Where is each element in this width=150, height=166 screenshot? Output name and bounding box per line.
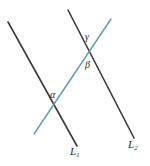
transversal-line [34,19,111,134]
angle-label-beta: β [85,60,90,70]
line-label-l2: L2 [128,139,138,152]
angle-label-alpha: α [50,90,55,100]
line-label-l1-subscript: 1 [76,151,80,159]
line-L2 [68,10,134,138]
line-label-l1: L1 [70,146,80,159]
line-label-l2-subscript: 2 [134,144,138,152]
angle-label-gamma: γ [85,32,89,42]
geometry-figure: α β γ L1 L2 [0,0,150,166]
